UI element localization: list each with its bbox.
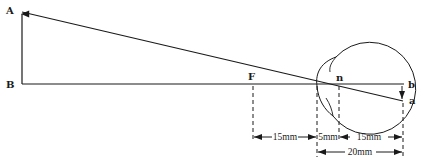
label-a: a xyxy=(409,95,416,106)
dim-label-cornea-nodal: 5mm xyxy=(318,132,338,142)
label-b: b xyxy=(408,79,415,90)
dim-label-front: 15mm xyxy=(273,132,298,142)
label-F: F xyxy=(248,71,255,82)
cornea-outline xyxy=(317,57,336,116)
dim-label-total: 20mm xyxy=(348,147,373,157)
label-n: n xyxy=(336,72,344,83)
label-B: B xyxy=(6,79,14,90)
dim-label-back: 15mm xyxy=(357,132,382,142)
eye-optics-diagram: 15mm 5mm 15mm 20mm A B F n b a xyxy=(0,0,421,164)
nodal-ray xyxy=(22,12,403,101)
label-A: A xyxy=(5,5,14,16)
